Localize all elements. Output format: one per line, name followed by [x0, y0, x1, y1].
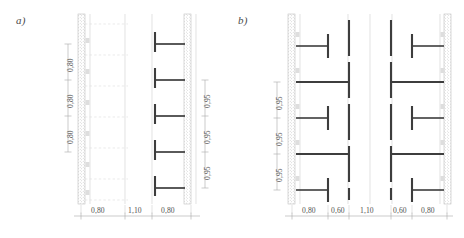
panel-a-wall-stubs [86, 38, 90, 195]
panel-b-left-dim-1: 0,95 [275, 96, 284, 110]
panel-a-bottom-dim-3: 0,80 [161, 206, 175, 215]
panel-a-label: a) [16, 14, 26, 26]
panel-b-left-dim-2: 0,95 [275, 132, 284, 146]
panel-b-left-tee-3 [296, 178, 328, 202]
panel-b-left-dim-3: 0,95 [275, 168, 284, 182]
panel-b-right-tee-3 [412, 178, 444, 202]
panel-a-bottom-dim-1: 0,80 [91, 206, 105, 215]
panel-a-right-wall [184, 14, 191, 204]
panel-a-right-dim-2: 0,95 [203, 130, 212, 144]
panel-a-left-wall [78, 14, 85, 204]
panel-b-right-wall [444, 14, 451, 204]
panel-b-left-wall-stubs [296, 32, 300, 181]
panel-a-cross-wall-1 [155, 32, 185, 52]
panel-a-cross-wall-5 [155, 176, 185, 196]
panel-b-bottom-dim-2: 0,60 [331, 206, 345, 215]
panel-a-right-dim-1: 0,95 [203, 94, 212, 108]
panel-a-cross-wall-4 [155, 140, 185, 160]
panel-b-right-tee-2 [412, 106, 444, 130]
panel-a-left-dim-3: 0,80 [66, 130, 75, 144]
panel-a-right-dim-3: 0,95 [203, 166, 212, 180]
panel-b-bottom-dim-3: 1,10 [360, 206, 374, 215]
panel-a-geometry [65, 14, 209, 220]
structural-drawing-canvas [0, 0, 464, 238]
panel-b-left-tee-2 [296, 106, 328, 130]
panel-a-bottom-dim-2: 1,10 [128, 206, 142, 215]
panel-a-cross-wall-3 [155, 104, 185, 124]
panel-b-geometry [274, 14, 454, 220]
panel-b-left-wall [288, 14, 295, 204]
panel-a-left-dim-1: 0,80 [66, 58, 75, 72]
panel-b-cross-walls-left [296, 34, 349, 202]
panel-b-right-tee-1 [412, 34, 444, 58]
panel-b-guides [300, 14, 440, 204]
panel-b-cross-walls-right [391, 34, 444, 202]
panel-b-bottom-dim-4: 0,60 [393, 206, 407, 215]
panel-b-label: b) [238, 14, 248, 26]
panel-a-cross-wall-2 [155, 68, 185, 88]
panel-a-left-dim-2: 0,80 [66, 94, 75, 108]
panel-b-bottom-dim-1: 0,80 [302, 206, 316, 215]
panel-b-bottom-dim-5: 0,80 [421, 206, 435, 215]
figure-root: a) b) 0,80 0,80 0,80 0,95 0,95 0,95 0,80… [0, 0, 464, 238]
panel-a-dashed-grid [85, 24, 128, 200]
panel-b-left-tee-1 [296, 34, 328, 58]
panel-a-cross-walls [155, 32, 185, 196]
